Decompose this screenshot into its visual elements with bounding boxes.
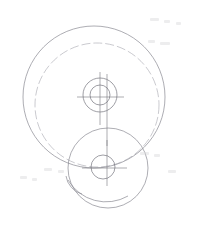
- drawing-background: [0, 0, 199, 231]
- technical-drawing: [0, 0, 199, 231]
- drawing-canvas: [0, 0, 199, 231]
